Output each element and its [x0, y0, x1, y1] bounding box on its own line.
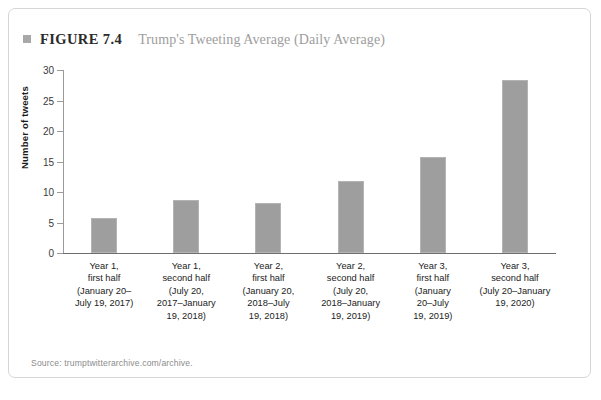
bar [91, 218, 117, 253]
bar [502, 80, 528, 253]
y-axis-tick [57, 253, 63, 254]
y-axis-tick-label: 5 [8, 217, 54, 228]
x-axis-label-line: 19, 2019) [393, 310, 473, 322]
x-axis-label-line: second half [475, 272, 555, 284]
x-axis-label-line: 19, 2018) [228, 310, 308, 322]
y-axis-tick-label: 25 [8, 95, 54, 106]
x-axis-label: Year 2,first half(January 20,2018–July19… [227, 260, 309, 322]
x-axis-label-line: (January 20– [64, 285, 144, 297]
x-axis-label-line: (January [393, 285, 473, 297]
bar-series [63, 70, 556, 253]
x-axis-label: Year 2,second half(July 20,2018–January1… [310, 260, 392, 322]
x-axis-label-line: Year 3, [393, 260, 473, 272]
x-axis-label-line: Year 3, [475, 260, 555, 272]
x-axis-label-line: second half [311, 272, 391, 284]
x-axis-label-line: 19, 2020) [475, 297, 555, 309]
x-axis-label-line: 20–July [393, 297, 473, 309]
x-axis-label-line: (July 20–January [475, 285, 555, 297]
x-axis-label-line: 19, 2018) [146, 310, 226, 322]
x-axis-line [63, 253, 556, 254]
x-axis-label-line: first half [228, 272, 308, 284]
x-axis-label-line: 19, 2019) [311, 310, 391, 322]
x-axis-label-line: first half [393, 272, 473, 284]
x-axis-label-line: Year 1, [146, 260, 226, 272]
x-axis-label-line: July 19, 2017) [64, 297, 144, 309]
x-axis-label-line: 2017–January [146, 297, 226, 309]
chart-plot-area: Number of tweets 051015202530 Year 1,fir… [0, 0, 601, 400]
x-axis-label-line: Year 2, [228, 260, 308, 272]
x-axis-labels: Year 1,first half(January 20–July 19, 20… [63, 260, 556, 322]
y-axis-tick-label: 0 [8, 248, 54, 259]
y-axis-tick-label: 20 [8, 126, 54, 137]
x-axis-label-line: (July 20, [311, 285, 391, 297]
x-axis-label: Year 1,second half(July 20,2017–January1… [145, 260, 227, 322]
x-axis-label-line: second half [146, 272, 226, 284]
x-axis-label: Year 3,second half(July 20–January19, 20… [474, 260, 556, 322]
x-axis-label-line: 2018–July [228, 297, 308, 309]
bar [420, 157, 446, 253]
bar [255, 203, 281, 253]
y-axis-tick-label: 15 [8, 156, 54, 167]
x-axis-label: Year 1,first half(January 20–July 19, 20… [63, 260, 145, 322]
bar [173, 200, 199, 253]
x-axis-label-line: first half [64, 272, 144, 284]
y-axis-tick-label: 30 [8, 65, 54, 76]
x-axis-label-line: Year 2, [311, 260, 391, 272]
x-axis-label-line: Year 1, [64, 260, 144, 272]
x-axis-label-line: 2018–January [311, 297, 391, 309]
x-axis-label: Year 3,first half(January20–July19, 2019… [392, 260, 474, 322]
x-axis-label-line: (July 20, [146, 285, 226, 297]
y-axis-tick-label: 10 [8, 187, 54, 198]
x-axis-label-line: (January 20, [228, 285, 308, 297]
bar [338, 181, 364, 253]
